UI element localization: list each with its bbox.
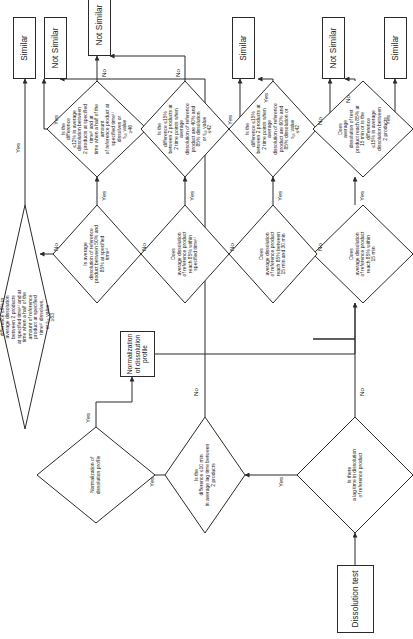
node-similar-middle[interactable]: Similar: [232, 17, 255, 79]
edge-label-lagdiff-no: No: [192, 388, 199, 396]
edge-label-norm-yes: Yes: [84, 413, 91, 423]
edge-label-diff15b-yes: Yes: [226, 115, 233, 125]
node-label: Is the difference ≤10 min in average lag…: [194, 435, 216, 516]
edge-label-diff15b-no: No: [174, 69, 181, 77]
decision-ref-between-50-85[interactable]: Is average dissolution of reference prod…: [53, 205, 141, 303]
node-not-similar-top[interactable]: Not Similar: [44, 17, 67, 79]
edge-label-ref8515-yes: Yes: [358, 191, 365, 201]
decision-ref-85-15-30min[interactable]: Does average dissolution of reference pr…: [229, 205, 317, 303]
node-label: Not Similar: [51, 27, 60, 68]
node-normalization-process[interactable]: Normalization of dissolution profile: [120, 331, 155, 377]
node-label: Similar: [20, 35, 29, 61]
node-label: Similar: [239, 35, 248, 61]
flowchart-rotated-group: Dissolution test Normalization of dissol…: [0, 0, 413, 639]
edge-label-test85-yes: Yes: [384, 115, 391, 125]
node-not-similar-middle[interactable]: Not Similar: [88, 0, 111, 56]
decision-test-85-15min[interactable]: Does average dissolution of test product…: [313, 81, 413, 177]
edge-label-ref851530-yes: Yes: [276, 191, 283, 201]
edge-label-ref85spec-yes: Yes: [188, 191, 195, 201]
edge-label-lag-no: No: [358, 388, 365, 396]
edge-label-diff12-yes: Yes: [52, 115, 59, 125]
edge-label-lag-yes: Yes: [277, 477, 284, 487]
decision-difference-15-percent-60-85[interactable]: Is the difference ≤15% between 2 product…: [229, 81, 317, 177]
decision-ref-85-specified-time[interactable]: Does average dissolution of reference pr…: [141, 205, 229, 303]
decision-difference-9-percent[interactable]: Is the difference ≤9% in average dissolu…: [0, 205, 50, 429]
decision-ref-85-15min[interactable]: Does average dissolution of reference pr…: [313, 205, 413, 303]
flowchart-canvas: Dissolution test Normalization of dissol…: [0, 0, 413, 639]
node-label: Does average dissolution of reference pr…: [349, 225, 377, 283]
node-label: Is the difference ≤15% between 2 product…: [157, 100, 213, 157]
node-similar-bottom[interactable]: Similar: [384, 17, 407, 79]
node-label: Is the difference ≤12% in average dissol…: [61, 100, 134, 157]
node-label: Similar: [391, 35, 400, 61]
node-label: Does average dissolution of reference pr…: [259, 225, 287, 283]
edge-label-ref8515-no: No: [316, 243, 323, 251]
decision-difference-12-percent[interactable]: Is the difference ≤12% in average dissol…: [47, 81, 147, 177]
edge-label-ref5085-no: No: [52, 243, 59, 251]
decision-difference-15-percent-40-85[interactable]: Is the difference ≤15% between 2 product…: [141, 81, 229, 177]
edge-label-diff15a-no: No: [316, 117, 323, 125]
node-label: Is average dissolution of reference prod…: [83, 225, 111, 283]
node-label: Does average dissolution of reference pr…: [171, 225, 199, 283]
node-label: Normalization of dissolution profile: [126, 334, 148, 374]
edge-label-ref85spec-no: No: [140, 243, 147, 251]
node-not-similar-bottom[interactable]: Not Similar: [322, 17, 345, 79]
decision-lag-difference-10min[interactable]: Is the difference ≤10 min in average lag…: [165, 417, 245, 533]
node-label: Not Similar: [95, 4, 104, 45]
node-label: Not Similar: [329, 27, 338, 68]
node-label: Does average dissolution of test product…: [338, 100, 388, 157]
edge-label-diff9-yes: Yes: [14, 143, 21, 153]
node-label: Normalization of dissolution profile: [90, 446, 101, 503]
node-similar-top[interactable]: Similar: [13, 17, 36, 79]
edge-label-lagdiff-yes: Yes: [148, 477, 155, 487]
node-start-dissolution-test[interactable]: Dissolution test: [337, 565, 374, 633]
edge-label-diff15a-yes: Yes: [262, 93, 269, 103]
decision-normalization[interactable]: Normalization of dissolution profile: [37, 427, 155, 523]
edge-label-test85-no: No: [344, 95, 351, 103]
node-label: Is the difference ≤9% in average dissolu…: [0, 238, 56, 396]
node-label: Is there a lag time in dissolution of re…: [347, 440, 364, 509]
edge-label-ref851530-no: No: [228, 243, 235, 251]
node-label: Is the difference ≤15% between 2 product…: [245, 100, 301, 157]
edge-label-ref5085-yes: Yes: [100, 191, 107, 201]
edge-label-diff12-no: No: [100, 69, 107, 77]
node-label: Dissolution test: [351, 570, 360, 627]
decision-lag-time[interactable]: Is there a lag time in dissolution of re…: [297, 417, 413, 533]
